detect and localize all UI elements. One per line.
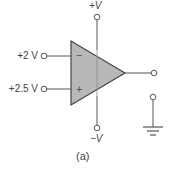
inverting-input-label: +2 V xyxy=(17,51,38,61)
inverting-sign: − xyxy=(76,50,82,60)
op-amp-diagram: +V −V +2 V +2.5 V − + (a) xyxy=(0,0,171,176)
non-inverting-input-terminal xyxy=(41,86,47,92)
ground-terminal xyxy=(150,94,156,100)
non-inverting-input-label: +2.5 V xyxy=(9,84,38,94)
positive-supply-label: +V xyxy=(89,1,102,11)
figure-caption: (a) xyxy=(76,151,89,161)
output-terminal xyxy=(151,70,157,76)
negative-supply-label: −V xyxy=(90,134,103,144)
inverting-input-terminal xyxy=(41,53,47,59)
non-inverting-sign: + xyxy=(76,84,82,94)
negative-supply-terminal xyxy=(94,125,100,131)
positive-supply-terminal xyxy=(94,14,100,20)
